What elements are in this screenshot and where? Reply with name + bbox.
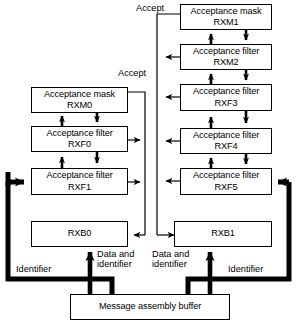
right-arrow-pair-rxf3-rxf4 [211,111,246,128]
box-rxm1[interactable]: Acceptance mask RXM1 [180,4,272,30]
box-rxb0-label: RXB0 [68,228,92,239]
box-rxf4[interactable]: Acceptance filter RXF4 [180,128,272,154]
label-accept-left: Accept [118,68,146,79]
right-arrow-pair-rxf4-rxf5 [211,154,246,168]
box-rxf5[interactable]: Acceptance filter RXF5 [180,168,272,195]
box-rxf1-line1: Acceptance filter [46,170,112,181]
label-data-right-line1: Data and [152,249,189,259]
box-rxf1[interactable]: Acceptance filter RXF1 [31,168,128,195]
right-arrow-pair-rxm1-rxm2 [211,30,246,44]
left-arrow-pair-rxm0-rxf0 [62,112,97,126]
right-accept-bus [157,14,180,235]
box-rxm1-line1: Acceptance mask [190,6,261,17]
box-rxf3-line1: Acceptance filter [193,86,259,97]
box-rxf1-line2: RXF1 [68,182,91,193]
right-arrow-pair-rxm2-rxf3 [211,70,246,84]
box-rxf0-line2: RXF0 [68,139,91,150]
box-rxf5-line1: Acceptance filter [193,170,259,181]
box-rxm0[interactable]: Acceptance mask RXM0 [31,87,128,113]
box-rxb1[interactable]: RXB1 [174,221,272,247]
can-filter-block-diagram: Acceptance mask RXM0 Acceptance filter R… [0,0,297,328]
box-rxf4-line2: RXF4 [214,141,237,152]
box-rxb1-label: RXB1 [211,228,235,239]
box-rxf0[interactable]: Acceptance filter RXF0 [31,126,128,152]
box-rxf3-line2: RXF3 [214,98,237,109]
label-data-right-line2: identifier [152,259,189,269]
label-data-and-identifier-left: Data and identifier [97,249,134,270]
label-data-left-line1: Data and [97,249,134,259]
label-accept-right: Accept [136,3,164,14]
box-rxf4-line1: Acceptance filter [193,130,259,141]
label-data-left-line2: identifier [97,259,134,269]
left-arrow-pair-rxf0-rxf1 [62,152,97,168]
label-identifier-left: Identifier [16,264,51,275]
box-rxm0-line1: Acceptance mask [44,89,115,100]
box-rxm0-line2: RXM0 [67,100,92,111]
box-message-assembly-buffer[interactable]: Message assembly buffer [70,294,230,320]
box-rxf3[interactable]: Acceptance filter RXF3 [180,84,272,111]
message-assembly-buffer-label: Message assembly buffer [99,301,201,312]
box-rxm2-line1: Acceptance filter [193,46,259,57]
box-rxm2[interactable]: Acceptance filter RXM2 [180,44,272,70]
left-accept-bus [128,92,145,235]
box-rxb0[interactable]: RXB0 [31,221,128,247]
box-rxm2-line2: RXM2 [213,57,238,68]
label-identifier-right: Identifier [228,264,263,275]
box-rxf0-line1: Acceptance filter [46,128,112,139]
box-rxm1-line2: RXM1 [213,17,238,28]
box-rxf5-line2: RXF5 [214,182,237,193]
left-identifier-arrowhead [8,172,30,182]
label-data-and-identifier-right: Data and identifier [152,249,189,270]
